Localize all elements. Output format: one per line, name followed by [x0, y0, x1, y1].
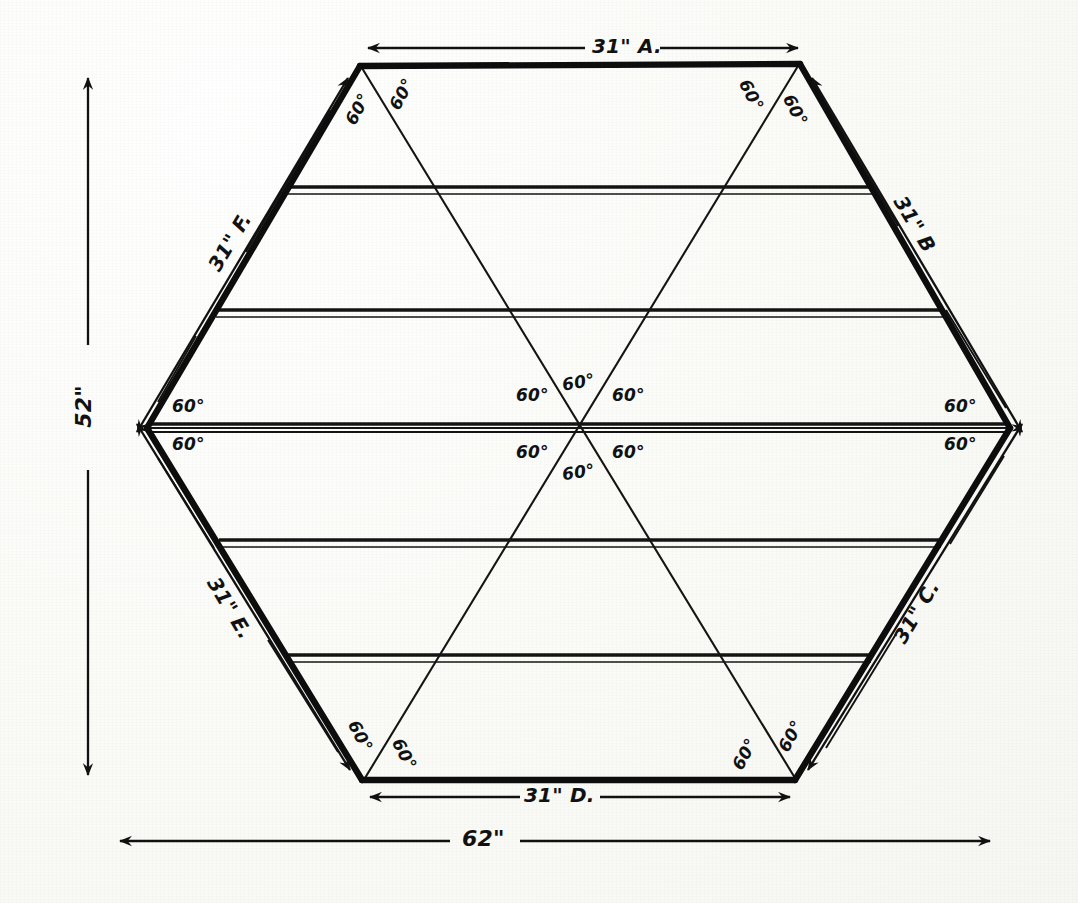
dim-c-leader-lower: [826, 634, 896, 748]
angle-label-left-upper: 60°: [172, 396, 205, 416]
dim-e-leader-lower: [268, 640, 338, 752]
dim-b-arrow: [812, 78, 1022, 432]
dimension-label-a: 31" A.: [592, 34, 662, 58]
angle-label-center-upper-right: 60°: [612, 385, 645, 405]
dimension-label-overall-width: 62": [462, 826, 505, 851]
angle-label-right-upper: 60°: [944, 396, 977, 416]
edge-a-top: [360, 64, 800, 66]
dim-f-arrow: [137, 78, 348, 432]
star-diagonals: [149, 66, 1008, 778]
dimension-label-overall-height: 52": [71, 385, 96, 428]
edge-e-lower-left: [147, 428, 362, 780]
drawing-sheet: 31" A. 31" B 31" C. 31" D. 31" E. 31" F.…: [0, 0, 1078, 903]
dimension-arrows: [88, 48, 1022, 841]
dim-b-leader-lower: [946, 310, 1006, 408]
edge-c-lower-right: [795, 428, 1010, 780]
angle-label-center-upper-left: 60°: [516, 385, 549, 405]
dim-b-leader-upper: [830, 112, 898, 226]
dim-f-leader-lower: [158, 336, 196, 402]
diagonal-tr-bl: [365, 66, 798, 778]
edge-f-upper-left: [147, 66, 360, 428]
slat-lines: [149, 187, 1009, 662]
dim-f-leader-upper: [246, 110, 330, 252]
dim-e-leader-upper: [158, 458, 214, 548]
dimension-label-d: 31" D.: [524, 783, 595, 807]
angle-label-center-lower-left: 60°: [516, 442, 549, 462]
edge-b-upper-right: [800, 64, 1010, 428]
angle-label-center-lower-right: 60°: [612, 442, 645, 462]
angle-label-left-lower: 60°: [172, 434, 205, 454]
angle-label-right-lower: 60°: [944, 434, 977, 454]
dim-c-leader-upper: [950, 456, 1004, 544]
